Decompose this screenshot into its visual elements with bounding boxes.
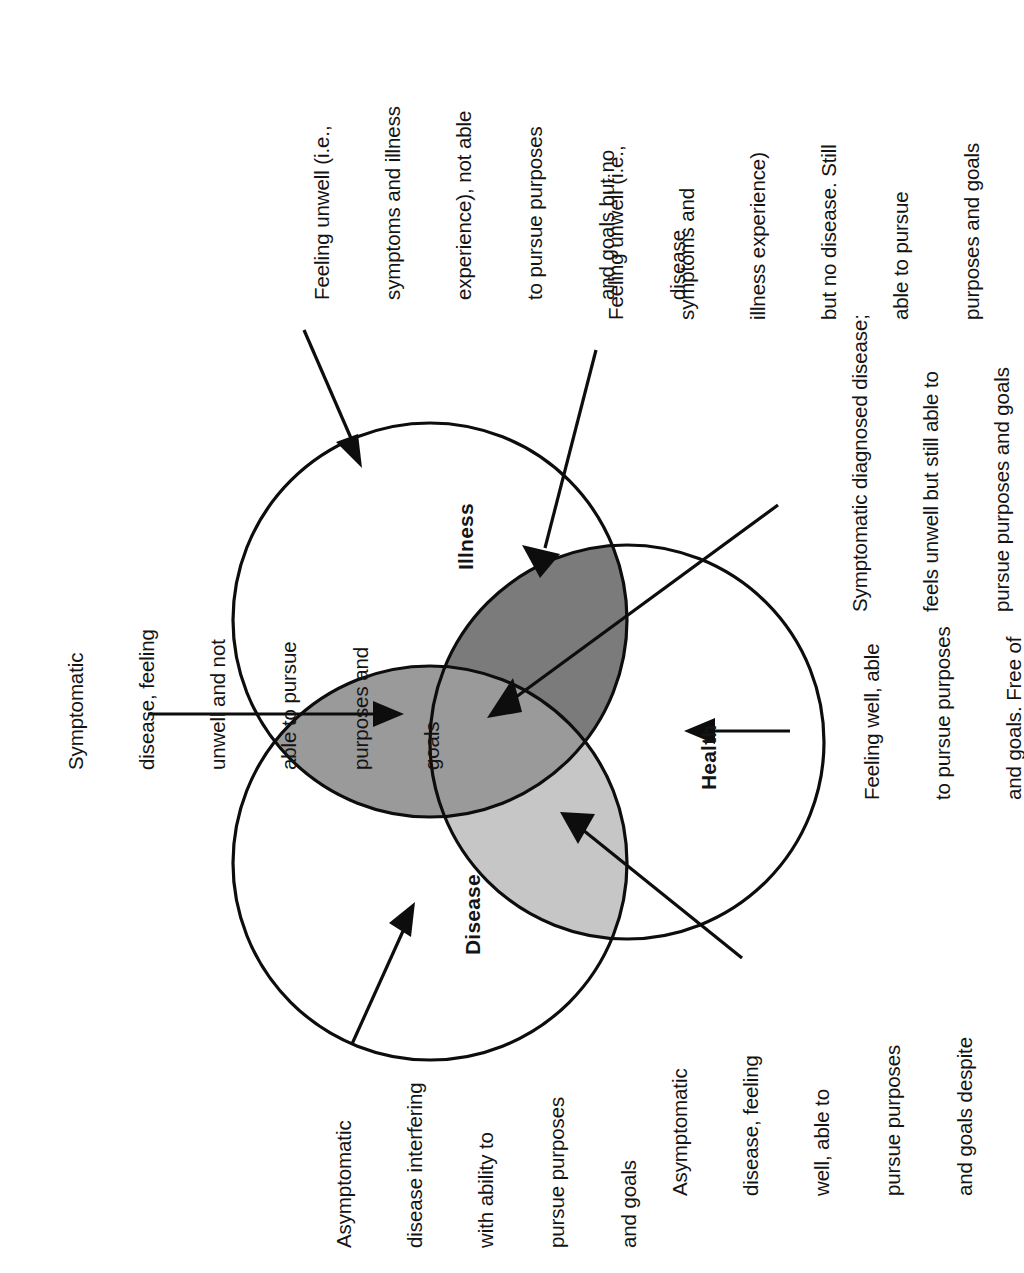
circle-label-health: Health [648, 725, 770, 790]
annotation-health-only: Feeling well, able to pursue purposes an… [812, 626, 1024, 800]
annotation-illness-disease: Symptomatic disease, feeling unwell and … [16, 629, 491, 770]
figure-canvas: Illness Health Disease Feeling unwell (i… [0, 0, 1024, 1273]
circle-label-disease: Disease [412, 874, 534, 955]
leader-disease-only [352, 902, 415, 1044]
circle-label-illness: Illness [405, 503, 527, 570]
annotation-illness-health: Feeling unwell (i.e., symptoms and illne… [556, 143, 1024, 320]
leader-illness-health [522, 350, 596, 578]
annotation-disease-health: Asymptomatic disease, feeling well, able… [620, 1037, 1024, 1196]
annotation-illness-disease-health: Symptomatic diagnosed disease; feels unw… [800, 314, 1024, 612]
